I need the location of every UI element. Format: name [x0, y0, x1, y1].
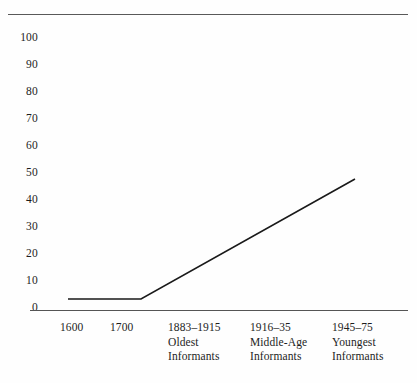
x-axis-group-middle-period: 1916–35: [250, 320, 307, 335]
x-axis-group-youngest-line2: Youngest: [332, 335, 383, 350]
x-axis-group-1700-period: 1700: [110, 320, 133, 335]
x-axis-group-1700: 1700: [110, 320, 133, 335]
chart-figure: 100 90 80 70 60 50 40 30 20 10 0 1600 17…: [0, 0, 417, 383]
x-axis-group-oldest-informants: 1883–1915 Oldest Informants: [168, 320, 221, 364]
x-axis-group-oldest-line3: Informants: [168, 349, 221, 364]
x-axis-group-youngest-period: 1945–75: [332, 320, 383, 335]
x-axis-group-oldest-line2: Oldest: [168, 335, 221, 350]
x-axis-group-1600: 1600: [60, 320, 83, 335]
x-axis-group-youngest-informants: 1945–75 Youngest Informants: [332, 320, 383, 364]
x-axis-group-middle-age-informants: 1916–35 Middle-Age Informants: [250, 320, 307, 364]
x-axis-group-youngest-line3: Informants: [332, 349, 383, 364]
x-axis-line: [30, 310, 408, 311]
series-polyline: [68, 179, 355, 299]
x-axis-group-middle-line3: Informants: [250, 349, 307, 364]
plot-area: 100 90 80 70 60 50 40 30 20 10 0 1600 17…: [0, 0, 417, 383]
x-axis-group-1600-period: 1600: [60, 320, 83, 335]
x-axis-group-oldest-period: 1883–1915: [168, 320, 221, 335]
x-axis-group-middle-line2: Middle-Age: [250, 335, 307, 350]
